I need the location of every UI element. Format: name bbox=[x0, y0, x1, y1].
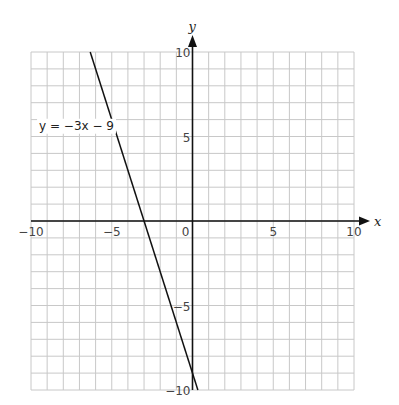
annotations: y = −3x − 9 bbox=[37, 119, 116, 134]
x-tick-label: 0 bbox=[182, 225, 190, 239]
tick-labels: −10−50510−10−5510 bbox=[18, 46, 361, 398]
y-tick-label: 5 bbox=[183, 131, 191, 145]
x-tick-label: −10 bbox=[18, 225, 43, 239]
equation-label: y = −3x − 9 bbox=[39, 119, 114, 133]
coordinate-plane: x y −10−50510−10−5510 y = −3x − 9 bbox=[0, 0, 399, 405]
y-tick-label: 10 bbox=[175, 46, 190, 60]
y-tick-label: −10 bbox=[165, 384, 190, 398]
x-tick-label: 5 bbox=[269, 225, 277, 239]
x-tick-label: 10 bbox=[346, 225, 361, 239]
x-tick-label: −5 bbox=[103, 225, 121, 239]
y-tick-label: −5 bbox=[173, 300, 191, 314]
x-axis-label: x bbox=[374, 214, 382, 229]
y-axis-label: y bbox=[188, 19, 197, 34]
